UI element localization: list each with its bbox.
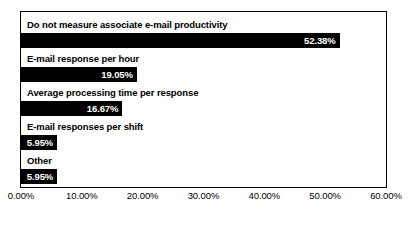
bar-wrapper: 52.38% xyxy=(21,33,340,48)
x-tick-label: 60.00% xyxy=(370,190,402,201)
bar[interactable]: 52.38% xyxy=(21,33,340,48)
x-axis: 0.00%10.00%20.00%30.00%40.00%50.00%60.00… xyxy=(0,190,415,206)
category-label: Do not measure associate e-mail producti… xyxy=(27,18,227,32)
category-label: Other xyxy=(27,154,52,168)
bar[interactable]: 5.95% xyxy=(21,169,57,184)
x-tick-label: 0.00% xyxy=(8,190,34,201)
bar[interactable]: 19.05% xyxy=(21,67,137,82)
bar-wrapper: 19.05% xyxy=(21,67,137,82)
bar-value-label: 5.95% xyxy=(27,135,53,150)
bar-wrapper: 16.67% xyxy=(21,101,122,116)
bar-group: E-mail response per hour19.05% xyxy=(21,51,386,85)
bar-group: Other5.95% xyxy=(21,153,386,187)
bar-group: E-mail responses per shift5.95% xyxy=(21,119,386,153)
bar-wrapper: 5.95% xyxy=(21,135,57,150)
bar-wrapper: 5.95% xyxy=(21,169,57,184)
bar-value-label: 19.05% xyxy=(101,67,133,82)
x-tick-label: 30.00% xyxy=(188,190,220,201)
bar-group: Do not measure associate e-mail producti… xyxy=(21,17,386,51)
bar[interactable]: 16.67% xyxy=(21,101,122,116)
bar-chart: Do not measure associate e-mail producti… xyxy=(0,0,415,225)
bar-group: Average processing time per response16.6… xyxy=(21,85,386,119)
bar-value-label: 52.38% xyxy=(304,33,336,48)
x-tick-label: 20.00% xyxy=(127,190,159,201)
bar-value-label: 5.95% xyxy=(27,169,53,184)
category-label: Average processing time per response xyxy=(27,86,198,100)
x-tick-label: 40.00% xyxy=(249,190,281,201)
plot-area: Do not measure associate e-mail producti… xyxy=(20,11,387,188)
x-tick-label: 50.00% xyxy=(309,190,341,201)
category-label: E-mail responses per shift xyxy=(27,120,143,134)
x-tick-label: 10.00% xyxy=(66,190,98,201)
bar[interactable]: 5.95% xyxy=(21,135,57,150)
bar-value-label: 16.67% xyxy=(87,101,119,116)
category-label: E-mail response per hour xyxy=(27,52,139,66)
